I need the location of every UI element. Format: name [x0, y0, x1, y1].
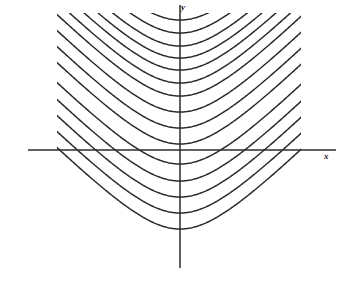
- y-axis-label: y: [181, 3, 185, 12]
- x-axis-label: x: [324, 152, 329, 161]
- figure-canvas: [0, 0, 343, 283]
- hyperbola-figure: y x: [0, 0, 343, 283]
